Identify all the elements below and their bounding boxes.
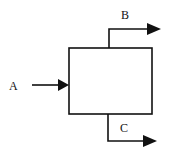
stream-c-arrow: [108, 114, 157, 147]
arrowhead-icon: [143, 135, 157, 147]
stream-a-arrow: [32, 79, 69, 91]
stream-c-label: C: [120, 121, 128, 135]
arrowhead-icon: [147, 23, 161, 35]
arrowhead-icon: [58, 79, 69, 91]
process-block: [69, 48, 152, 114]
stream-b-arrow: [109, 23, 161, 48]
process-diagram: A B C: [0, 0, 170, 154]
stream-b-label: B: [121, 8, 129, 22]
stream-a-label: A: [9, 79, 18, 93]
